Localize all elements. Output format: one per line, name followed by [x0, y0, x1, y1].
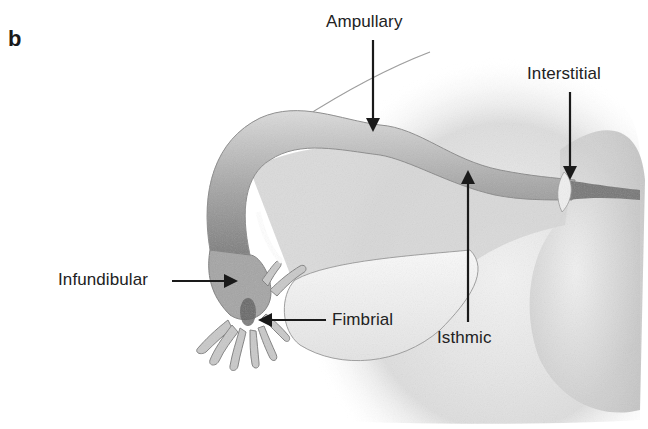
fallopian-tube-diagram: b Ampullary Interstitial Infundibular Fi… [0, 0, 648, 429]
label-infundibular: Infundibular [58, 270, 148, 290]
label-interstitial: Interstitial [527, 64, 601, 84]
label-fimbrial: Fimbrial [332, 310, 393, 330]
label-ampullary: Ampullary [326, 12, 402, 32]
label-isthmic: Isthmic [437, 328, 492, 348]
panel-letter: b [8, 26, 21, 52]
